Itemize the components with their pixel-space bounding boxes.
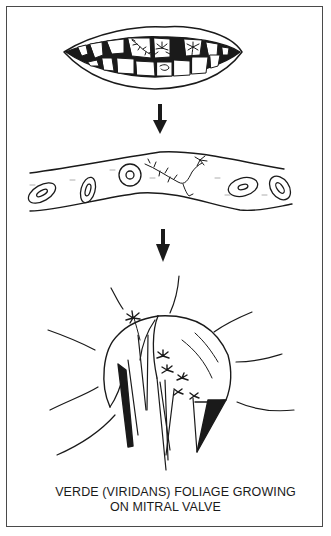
mitral-valve-drawing: [48, 276, 294, 470]
caption-line-1: VERDE (VIRIDANS) FOLIAGE GROWING: [6, 485, 325, 500]
figure-caption: VERDE (VIRIDANS) FOLIAGE GROWING ON MITR…: [6, 485, 325, 515]
arrow-down-icon: [153, 104, 167, 134]
palm-tree-icon: [126, 311, 199, 399]
mouth-drawing: [64, 27, 242, 89]
arrow-down-icon: [156, 229, 170, 262]
caption-line-2: ON MITRAL VALVE: [6, 500, 325, 515]
blood-vessel-drawing: [25, 152, 295, 211]
illustration: [0, 0, 331, 536]
